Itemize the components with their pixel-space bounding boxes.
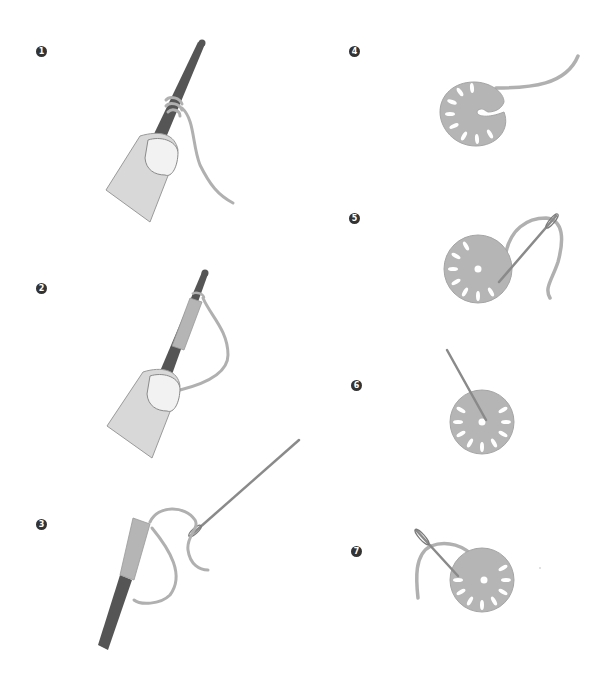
- step-5: 5: [306, 170, 612, 320]
- step-5-illustration: [306, 170, 612, 320]
- step-6: 6: [306, 330, 612, 480]
- rosette-icon: [444, 235, 512, 303]
- step-6-illustration: [306, 330, 612, 480]
- yarn-coil-icon: [172, 293, 204, 350]
- step-7-illustration: [306, 490, 612, 640]
- rosette-icon: [450, 390, 514, 454]
- yarn-strand-icon: [496, 56, 578, 88]
- partial-rosette-icon: [440, 82, 506, 146]
- yarn-strand-icon: [506, 218, 562, 298]
- step-2-illustration: [0, 250, 306, 470]
- step-7: 7: [306, 490, 612, 640]
- speck: [539, 567, 541, 569]
- finger-icon: [107, 369, 180, 458]
- step-3: 3: [0, 470, 320, 691]
- step-4: 4: [306, 0, 612, 170]
- step-2: 2: [0, 250, 306, 470]
- crochet-hook-icon: [153, 40, 206, 141]
- step-1: 1: [0, 0, 306, 240]
- yarn-coil-icon: [120, 518, 150, 580]
- step-3-illustration: [0, 470, 320, 691]
- step-4-illustration: [306, 0, 612, 170]
- finger-icon: [106, 133, 178, 222]
- crochet-hook-icon: [98, 575, 132, 650]
- rosette-icon: [450, 548, 514, 612]
- needle-icon: [413, 528, 458, 576]
- step-1-illustration: [0, 0, 306, 240]
